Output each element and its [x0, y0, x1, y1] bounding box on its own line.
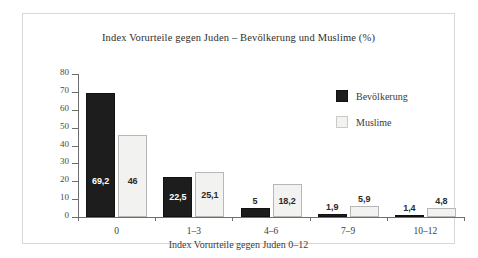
bar-value-label: 4,8: [435, 196, 447, 206]
y-axis-tick: 50: [72, 128, 78, 129]
y-axis-tick-label: 40: [60, 139, 69, 149]
x-axis-tick: [155, 217, 156, 221]
bar-value-label: 22,5: [169, 192, 186, 202]
bar-bevölkerung-1: 22,5: [163, 177, 192, 217]
x-axis-tick: [310, 217, 311, 221]
bar-value-label: 46: [128, 176, 138, 186]
legend-item-label: Muslime: [356, 117, 392, 128]
bar-muslime-0: 46: [118, 135, 147, 217]
y-axis-tick-label: 30: [60, 156, 69, 166]
x-axis-tick: [464, 217, 465, 221]
bar-muslime-1: 25,1: [195, 172, 224, 217]
bar-value-label: 5,9: [358, 194, 370, 204]
legend-item-muslime: Muslime: [336, 116, 392, 128]
bar-bevölkerung-3: [318, 214, 347, 217]
x-axis-tick-label: 4–6: [264, 226, 278, 236]
x-axis-tick-label: 0: [114, 226, 119, 236]
y-axis-tick: 70: [72, 92, 78, 93]
y-axis-tick-label: 0: [65, 210, 70, 220]
legend-item-bevölkerung: Bevölkerung: [336, 90, 408, 102]
y-axis-tick-label: 10: [60, 192, 69, 202]
y-axis-line: [78, 74, 79, 217]
x-axis-tick: [232, 217, 233, 221]
dark-square-icon: [336, 90, 348, 102]
y-axis-tick-label: 50: [60, 121, 69, 131]
light-square-icon: [336, 116, 348, 128]
bar-bevölkerung-4: [395, 215, 424, 218]
bar-value-label: 18,2: [278, 196, 295, 206]
x-axis-tick: [78, 217, 79, 221]
y-axis-tick: 20: [72, 181, 78, 182]
y-axis-tick: 80: [72, 74, 78, 75]
figure-frame: Index Vorurteile gegen Juden – Bevölkeru…: [22, 13, 455, 244]
x-axis-line: [78, 217, 464, 218]
chart-page: Index Vorurteile gegen Juden – Bevölkeru…: [0, 0, 478, 258]
legend-item-label: Bevölkerung: [356, 91, 408, 102]
bar-muslime-2: 18,2: [273, 184, 302, 217]
bar-bevölkerung-0: 69,2: [86, 93, 115, 217]
bar-value-label: 5: [253, 196, 258, 206]
chart-title: Index Vorurteile gegen Juden – Bevölkeru…: [23, 32, 454, 43]
bar-value-label: 1,4: [403, 203, 415, 213]
bar-value-label: 69,2: [92, 176, 109, 186]
bar-value-label: 1,9: [326, 202, 338, 212]
y-axis-tick-label: 80: [60, 67, 69, 77]
x-axis-tick-label: 10–12: [414, 226, 438, 236]
y-axis-tick: 60: [72, 110, 78, 111]
bar-muslime-4: [427, 208, 456, 217]
bar-bevölkerung-2: [241, 208, 270, 217]
bar-value-label: 25,1: [201, 190, 218, 200]
x-axis-tick-label: 1–3: [187, 226, 201, 236]
x-axis-tick: [387, 217, 388, 221]
y-axis-tick: 40: [72, 146, 78, 147]
y-axis-tick-label: 60: [60, 103, 69, 113]
bar-muslime-3: [350, 206, 379, 217]
y-axis-tick-label: 70: [60, 85, 69, 95]
x-axis-title: Index Vorurteile gegen Juden 0–12: [23, 239, 454, 250]
y-axis-tick: 10: [72, 199, 78, 200]
y-axis-tick: 30: [72, 163, 78, 164]
x-axis-tick-label: 7–9: [341, 226, 355, 236]
y-axis-tick-label: 20: [60, 174, 69, 184]
